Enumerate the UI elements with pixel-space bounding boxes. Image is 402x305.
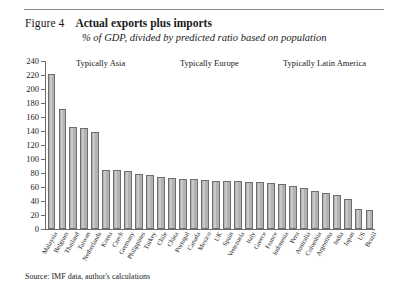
bar xyxy=(311,191,319,230)
y-axis-tick-label: 220 xyxy=(26,71,39,80)
y-axis-tick-mark xyxy=(41,61,45,62)
y-axis-tick-label: 180 xyxy=(26,99,39,108)
y-axis-tick-label: 40 xyxy=(31,197,40,206)
y-axis-tick-label: 0 xyxy=(35,225,39,234)
bar xyxy=(168,178,176,229)
figure-number: Figure 4 xyxy=(25,17,64,29)
y-axis-tick-label: 160 xyxy=(26,113,39,122)
bar xyxy=(146,175,154,229)
bar xyxy=(278,184,286,229)
y-axis-tick-label: 140 xyxy=(26,127,39,136)
y-axis-tick-mark xyxy=(41,103,45,104)
y-axis-tick-mark xyxy=(41,159,45,160)
figure-subtitle: % of GDP, divided by predicted ratio bas… xyxy=(82,32,326,43)
bar-series xyxy=(46,61,375,229)
x-axis-line xyxy=(45,229,375,230)
y-axis-tick-mark xyxy=(41,117,45,118)
y-axis-tick-mark xyxy=(41,131,45,132)
y-axis-tick-mark xyxy=(41,215,45,216)
bar xyxy=(355,209,363,229)
bar xyxy=(135,174,143,229)
bar xyxy=(223,181,231,229)
bar xyxy=(267,183,275,229)
bar xyxy=(157,177,165,230)
y-axis-tick-mark xyxy=(41,89,45,90)
y-axis-tick-mark xyxy=(41,187,45,188)
y-axis-tick-label: 80 xyxy=(31,169,40,178)
bar xyxy=(113,170,121,229)
bar xyxy=(245,182,253,229)
bar xyxy=(80,128,88,230)
bar xyxy=(212,181,220,229)
bar xyxy=(289,186,297,229)
figure-title-block: Figure 4 Actual exports plus imports % o… xyxy=(25,17,385,35)
y-axis-tick-label: 240 xyxy=(26,57,39,66)
bar xyxy=(69,127,77,229)
page-title: Actual exports plus imports xyxy=(75,17,211,29)
bar xyxy=(102,170,110,230)
bar xyxy=(201,180,209,229)
bar xyxy=(59,109,67,229)
y-axis-tick-mark xyxy=(41,173,45,174)
y-axis-tick-label: 100 xyxy=(26,155,39,164)
bar xyxy=(179,179,187,229)
bar xyxy=(300,188,308,229)
bar xyxy=(322,193,330,229)
bar xyxy=(366,210,374,229)
top-divider xyxy=(24,9,384,10)
y-axis-tick-label: 200 xyxy=(26,85,39,94)
y-axis-tick-label: 20 xyxy=(31,211,40,220)
bar xyxy=(91,132,99,229)
y-axis-tick-mark xyxy=(41,229,45,230)
y-axis-tick-label: 60 xyxy=(31,183,40,192)
y-axis-tick-mark xyxy=(41,145,45,146)
bar xyxy=(344,199,352,229)
bar xyxy=(190,179,198,229)
bar xyxy=(333,195,341,229)
bar xyxy=(256,182,264,229)
chart-plot-area: 020406080100120140160180200220240 xyxy=(45,61,375,229)
bar xyxy=(48,74,56,229)
source-note: Source: IMF data, author's calculations xyxy=(25,272,150,281)
y-axis-tick-mark xyxy=(41,75,45,76)
bar xyxy=(234,181,242,229)
y-axis-tick-mark xyxy=(41,201,45,202)
y-axis-tick-label: 120 xyxy=(26,141,39,150)
bar xyxy=(124,171,132,229)
